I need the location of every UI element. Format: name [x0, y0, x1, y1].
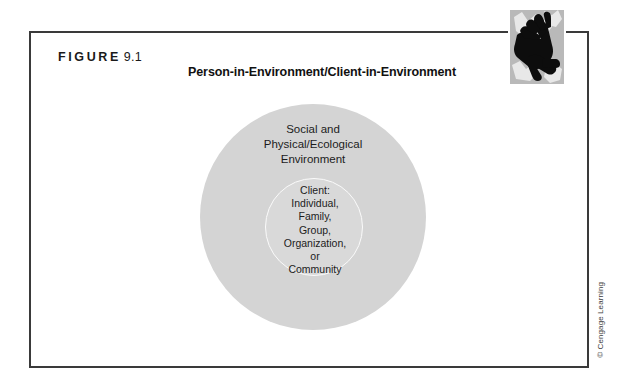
hands-illustration-icon	[508, 7, 566, 86]
figure-label: FIGURE9.1	[58, 50, 142, 64]
figure-label-word: FIGURE	[58, 50, 121, 64]
social-environment-circle: Social and Physical/Ecological Environme…	[200, 104, 426, 330]
client-system-circle: Client: Individual, Family, Group, Organ…	[265, 178, 363, 276]
social-environment-label: Social and Physical/Ecological Environme…	[200, 122, 426, 167]
figure-label-number: 9.1	[124, 50, 142, 64]
client-system-label: Client: Individual, Family, Group, Organ…	[252, 184, 378, 276]
copyright-credit: © Cengage Learning	[596, 282, 605, 358]
person-in-environment-diagram: Social and Physical/Ecological Environme…	[200, 104, 426, 330]
